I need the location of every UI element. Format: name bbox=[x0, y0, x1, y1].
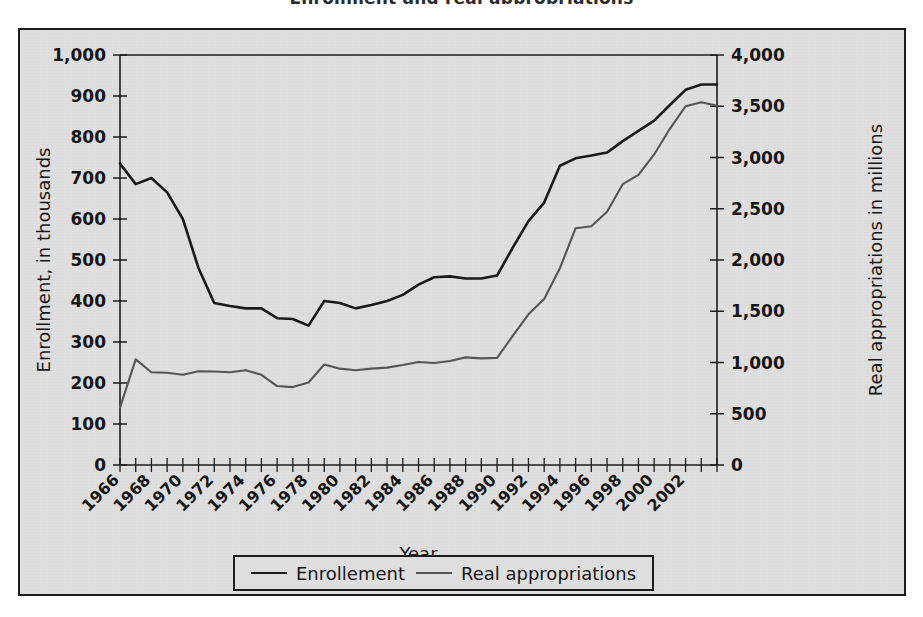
chart-legend: Enrollement Real appropriations bbox=[233, 555, 654, 591]
chart-figure-frame: 1,00090080070060050040030020010004,0003,… bbox=[18, 28, 906, 596]
y-tick-label-left: 100 bbox=[71, 414, 107, 434]
y-tick-label-right: 1,500 bbox=[731, 301, 785, 321]
y-tick-label-left: 700 bbox=[71, 168, 107, 188]
y-tick-label-right: 3,500 bbox=[731, 96, 785, 116]
y-axis-title-right: Real appropriations in millions bbox=[865, 124, 886, 396]
y-tick-label-right: 3,000 bbox=[731, 148, 785, 168]
y-tick-label-left: 400 bbox=[71, 291, 107, 311]
legend-item-enrollment[interactable]: Enrollement bbox=[251, 563, 405, 584]
y-tick-label-left: 800 bbox=[71, 127, 107, 147]
legend-line-swatch-enrollment bbox=[251, 572, 287, 574]
legend-label-appropriations: Real appropriations bbox=[461, 563, 636, 584]
series-line-appropriations bbox=[120, 102, 717, 407]
y-tick-label-left: 200 bbox=[71, 373, 107, 393]
y-tick-label-left: 1,000 bbox=[52, 45, 106, 65]
legend-label-enrollment: Enrollement bbox=[296, 563, 405, 584]
clipped-title-remnant: Enrollment and real appropriations bbox=[0, 0, 923, 4]
y-tick-label-left: 0 bbox=[94, 455, 106, 475]
y-tick-label-right: 4,000 bbox=[731, 45, 785, 65]
y-axis-title-left: Enrollment, in thousands bbox=[33, 148, 54, 373]
y-tick-label-right: 2,500 bbox=[731, 199, 785, 219]
y-tick-label-left: 300 bbox=[71, 332, 107, 352]
y-tick-label-right: 500 bbox=[731, 404, 767, 424]
y-tick-label-right: 2,000 bbox=[731, 250, 785, 270]
legend-line-swatch-appropriations bbox=[416, 572, 452, 574]
chart-plot-svg: 1,00090080070060050040030020010004,0003,… bbox=[20, 30, 908, 598]
y-tick-label-right: 1,000 bbox=[731, 353, 785, 373]
y-tick-label-left: 500 bbox=[71, 250, 107, 270]
y-tick-label-right: 0 bbox=[731, 455, 743, 475]
y-tick-label-left: 900 bbox=[71, 86, 107, 106]
y-tick-label-left: 600 bbox=[71, 209, 107, 229]
legend-item-appropriations[interactable]: Real appropriations bbox=[416, 563, 636, 584]
series-line-enrollment bbox=[120, 85, 717, 326]
